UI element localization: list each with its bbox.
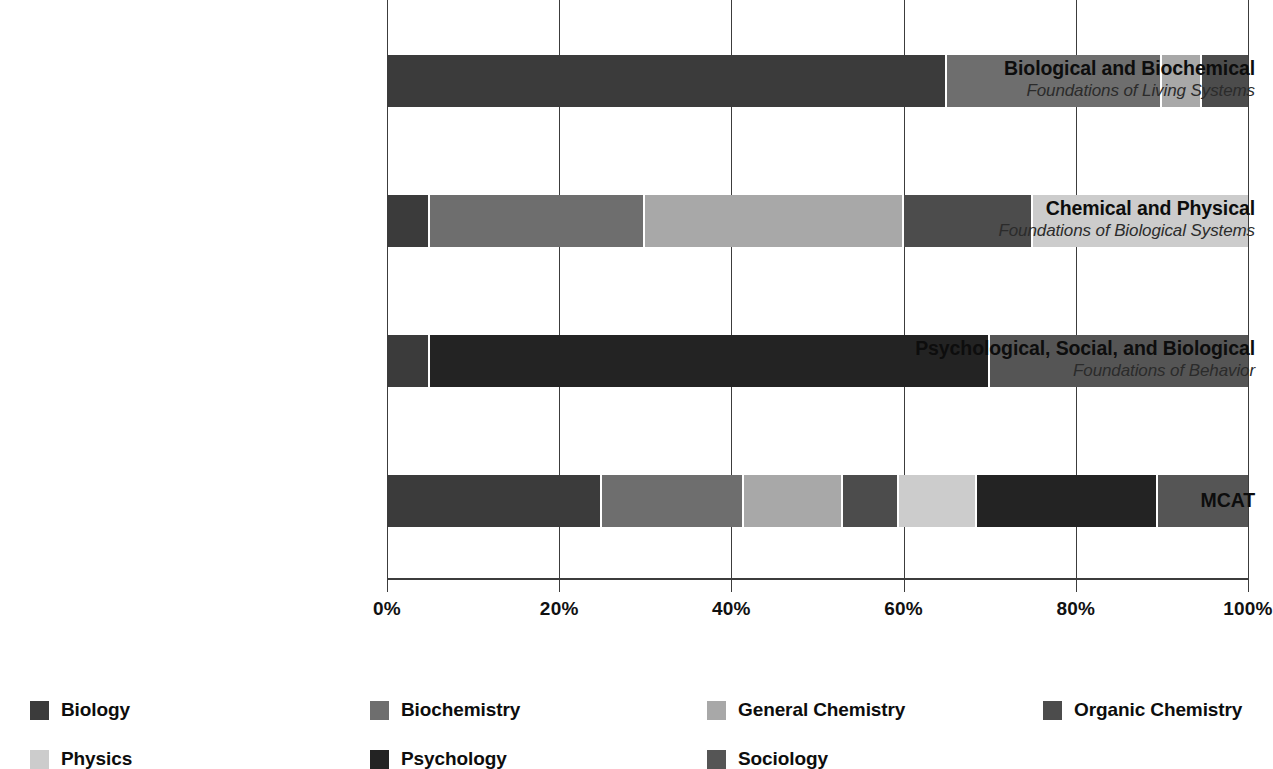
bar-segment-general-chemistry — [744, 475, 843, 527]
bar-segment-biochemistry — [430, 195, 645, 247]
bar-segment-biology — [387, 335, 430, 387]
legend-item-general-chemistry: General Chemistry — [707, 699, 905, 721]
legend-swatch-icon — [370, 750, 389, 769]
category-label: Psychological, Social, and BiologicalFou… — [887, 337, 1267, 381]
legend-item-biology: Biology — [30, 699, 130, 721]
category-label-sub: Foundations of Biological Systems — [887, 221, 1255, 241]
legend-swatch-icon — [1043, 701, 1062, 720]
category-label: Biological and BiochemicalFoundations of… — [887, 57, 1267, 101]
x-tick-0pct — [387, 578, 388, 592]
legend-swatch-icon — [370, 701, 389, 720]
category-label-main: Chemical and Physical — [887, 197, 1255, 220]
x-tick-label: 0% — [373, 598, 401, 620]
legend-swatch-icon — [30, 750, 49, 769]
x-tick-label: 20% — [540, 598, 579, 620]
legend-swatch-icon — [707, 750, 726, 769]
category-label: MCAT — [887, 489, 1267, 512]
bar-segment-biology — [387, 195, 430, 247]
legend-label: Biology — [61, 699, 130, 721]
legend-label: Organic Chemistry — [1074, 699, 1242, 721]
legend-item-organic-chemistry: Organic Chemistry — [1043, 699, 1242, 721]
category-label: Chemical and PhysicalFoundations of Biol… — [887, 197, 1267, 241]
bar-segment-general-chemistry — [645, 195, 903, 247]
category-label-sub: Foundations of Living Systems — [887, 81, 1255, 101]
legend-item-biochemistry: Biochemistry — [370, 699, 520, 721]
bar-segment-biochemistry — [602, 475, 744, 527]
x-tick-label: 80% — [1056, 598, 1095, 620]
x-tick-80pct — [1076, 578, 1077, 592]
legend-label: Biochemistry — [401, 699, 520, 721]
category-label-main: Biological and Biochemical — [887, 57, 1255, 80]
x-tick-label: 40% — [712, 598, 751, 620]
legend-label: Psychology — [401, 748, 507, 769]
legend-item-sociology: Sociology — [707, 748, 828, 769]
x-axis-line — [387, 578, 1249, 580]
bar-segment-biology — [387, 475, 602, 527]
x-tick-40pct — [731, 578, 732, 592]
category-label-sub: Foundations of Behavior — [887, 361, 1255, 381]
category-label-main: MCAT — [887, 489, 1255, 512]
legend-swatch-icon — [707, 701, 726, 720]
x-tick-label: 100% — [1223, 598, 1272, 620]
x-tick-100pct — [1248, 578, 1249, 592]
x-tick-20pct — [559, 578, 560, 592]
bar-segment-biology — [387, 55, 947, 107]
legend-label: General Chemistry — [738, 699, 905, 721]
legend-item-psychology: Psychology — [370, 748, 507, 769]
legend-item-physics: Physics — [30, 748, 132, 769]
legend-label: Physics — [61, 748, 132, 769]
legend-swatch-icon — [30, 701, 49, 720]
x-tick-label: 60% — [884, 598, 923, 620]
legend-label: Sociology — [738, 748, 828, 769]
x-tick-60pct — [904, 578, 905, 592]
category-label-main: Psychological, Social, and Biological — [887, 337, 1255, 360]
legend: BiologyBiochemistryGeneral ChemistryOrga… — [0, 668, 1267, 769]
